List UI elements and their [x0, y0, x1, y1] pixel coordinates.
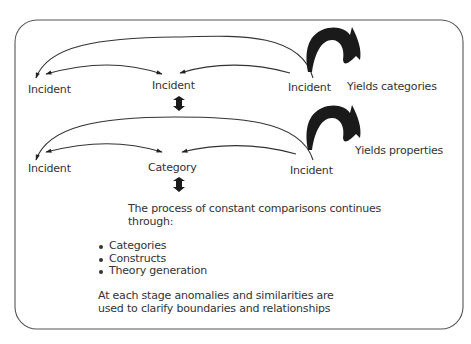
arc-row1-right-to-left: [36, 36, 313, 78]
process-stage-list: Categories Constructs Theory generation: [98, 240, 298, 278]
arrow-row1-right-to-middle: [180, 65, 290, 73]
yields-properties-label: Yields properties: [355, 144, 443, 157]
stage-item-categories: Categories: [98, 240, 298, 253]
arrow-row2-right-to-middle: [182, 146, 296, 154]
arrow-row1-left-middle: [46, 65, 162, 74]
stage-item-theory-generation: Theory generation: [98, 265, 298, 278]
yields-categories-label: Yields categories: [347, 80, 437, 93]
arc-row2-right-to-left: [36, 117, 313, 160]
node-row1-incident-middle: Incident: [152, 79, 195, 92]
yield-arrow-icon-row1: [307, 27, 361, 72]
process-conclusion-text: At each stage anomalies and similarities…: [98, 290, 358, 315]
double-arrow-icon-row2-text: [173, 177, 185, 192]
node-row1-incident-left: Incident: [28, 83, 71, 96]
node-row2-incident-left: Incident: [28, 162, 71, 175]
node-row1-incident-right: Incident: [288, 81, 331, 94]
node-row2-category: Category: [148, 161, 197, 174]
node-row2-incident-right: Incident: [290, 164, 333, 177]
yield-arrow-icon-row2: [307, 105, 361, 150]
process-intro-text: The process of constant comparisons cont…: [128, 203, 383, 228]
double-arrow-icon-row1-row2: [173, 96, 185, 111]
arrow-row2-left-middle: [46, 144, 162, 152]
